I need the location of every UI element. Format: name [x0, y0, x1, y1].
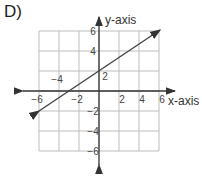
y-tick-label: −6: [87, 146, 99, 157]
x-tick-label: 4: [139, 94, 145, 105]
y-tick-label: −2: [87, 106, 99, 117]
x-tick-label: −4: [51, 74, 63, 85]
y-tick-label: −4: [87, 126, 99, 137]
y-tick-label: 4: [90, 46, 96, 57]
x-tick-label: 6: [159, 94, 165, 105]
x-tick-label: −2: [71, 94, 83, 105]
line-graph: −6−4−2246642−2−4−6y-axisx-axis: [0, 0, 202, 180]
x-axis-title: x-axis: [168, 94, 199, 108]
y-tick-label: 6: [90, 26, 96, 37]
y-axis-title: y-axis: [105, 13, 136, 27]
y-tick-label: 2: [102, 71, 108, 82]
x-tick-label: −6: [31, 94, 43, 105]
x-tick-label: 2: [119, 94, 125, 105]
